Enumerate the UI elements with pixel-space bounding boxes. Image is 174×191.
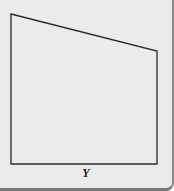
side-label-y: Y (74, 166, 98, 181)
quadrilateral-shape (0, 0, 174, 191)
